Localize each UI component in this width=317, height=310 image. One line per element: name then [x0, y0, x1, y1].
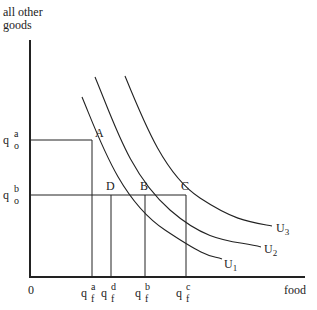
svg-text:f: f	[145, 293, 149, 304]
svg-text:a: a	[91, 281, 96, 292]
y-axis-label-line1: all other	[3, 5, 43, 19]
svg-text:d: d	[111, 281, 116, 292]
svg-text:o: o	[14, 195, 19, 206]
svg-text:b: b	[145, 281, 150, 292]
svg-text:f: f	[111, 293, 115, 304]
svg-text:q: q	[3, 188, 9, 202]
curve-label-u1: U1	[224, 257, 237, 273]
curve-u2	[95, 77, 261, 247]
svg-text:o: o	[14, 140, 19, 151]
point-label-c: C	[181, 179, 189, 193]
svg-text:a: a	[14, 128, 19, 139]
y-tick-qob: q b o	[3, 183, 19, 206]
point-label-d: D	[106, 179, 115, 193]
svg-text:U1: U1	[224, 257, 237, 273]
x-tick-qfd: q d f	[101, 281, 116, 304]
point-label-a: A	[95, 126, 104, 140]
svg-text:f: f	[186, 293, 190, 304]
svg-text:f: f	[91, 293, 95, 304]
svg-text:q: q	[135, 286, 141, 300]
svg-text:q: q	[3, 133, 9, 147]
x-tick-qfb: q b f	[135, 281, 150, 304]
x-tick-qfa: q a f	[81, 281, 96, 304]
curve-label-u2: U2	[264, 242, 277, 258]
svg-text:U3: U3	[276, 221, 290, 237]
x-axis-label: food	[284, 283, 306, 297]
x-tick-qfc: q c f	[176, 281, 191, 304]
y-tick-qoa: q a o	[3, 128, 19, 151]
svg-text:b: b	[14, 183, 19, 194]
svg-text:q: q	[176, 286, 182, 300]
curve-label-u3: U3	[276, 221, 290, 237]
svg-text:c: c	[186, 281, 191, 292]
y-axis-label-line2: goods	[3, 18, 32, 32]
indifference-curve-diagram: all other goods 0 food U1 U2 U3 A D B C …	[0, 0, 317, 310]
svg-text:q: q	[101, 286, 107, 300]
curve-u1	[82, 97, 222, 259]
origin-label: 0	[28, 283, 34, 297]
curve-u3	[125, 76, 272, 226]
point-label-b: B	[140, 179, 148, 193]
svg-text:q: q	[81, 286, 87, 300]
svg-text:U2: U2	[264, 242, 277, 258]
